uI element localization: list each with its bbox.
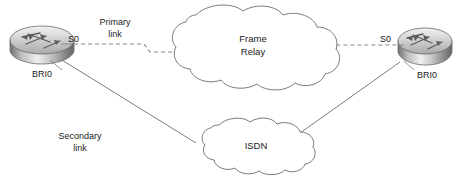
frame-relay-label-line2: Relay	[241, 46, 266, 57]
left-router-icon[interactable]	[10, 26, 74, 64]
right-router-s0-label: S0	[380, 34, 391, 44]
primary-link-left-segment	[74, 44, 178, 52]
secondary-link-label-line1: Secondary	[58, 131, 102, 141]
right-router-icon[interactable]	[398, 28, 452, 65]
network-diagram-canvas: Frame Relay ISDN	[0, 0, 454, 183]
right-router-bri0-label: BRI0	[417, 70, 437, 80]
left-router-bri0-label: BRI0	[32, 69, 52, 79]
isdn-label-line1: ISDN	[245, 140, 268, 151]
primary-link-label-line2: link	[108, 29, 122, 39]
primary-link-label-line1: Primary	[100, 17, 131, 27]
frame-relay-cloud: Frame Relay	[172, 5, 339, 90]
frame-relay-label-line1: Frame	[239, 33, 266, 44]
left-router-s0-label: S0	[68, 34, 79, 44]
isdn-cloud: ISDN	[202, 118, 315, 175]
secondary-link-label-line2: link	[73, 143, 87, 153]
diagram-svg: Frame Relay ISDN	[0, 0, 454, 183]
